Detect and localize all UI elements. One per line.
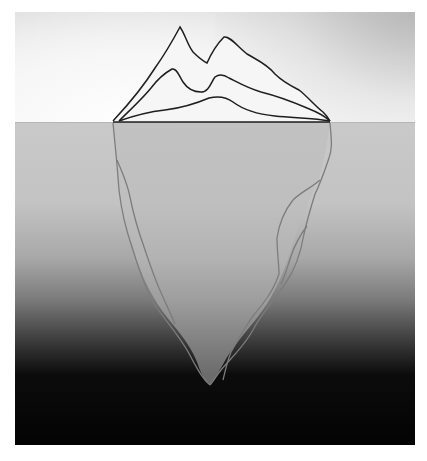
iceberg-figure <box>15 12 415 445</box>
figure-caption <box>15 452 415 461</box>
iceberg-tip-fill <box>113 27 330 121</box>
submerged-iceberg-fill <box>113 123 330 385</box>
iceberg-drawing <box>15 12 415 445</box>
